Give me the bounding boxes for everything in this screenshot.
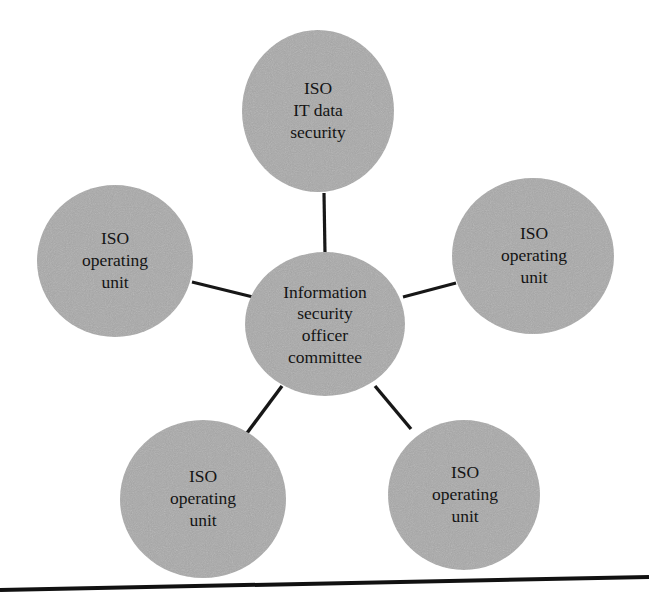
connector-center-to-top <box>324 193 325 254</box>
node-shape-group <box>37 30 614 578</box>
node-shape-iso-operating-unit-left[interactable] <box>37 185 193 337</box>
diagram-canvas: ISO IT data security ISO operating unit … <box>0 0 649 602</box>
node-shape-iso-operating-unit-bottom-right[interactable] <box>388 420 540 570</box>
connector-center-to-lower-right <box>375 386 411 429</box>
node-shape-iso-it-data-security[interactable] <box>242 30 394 192</box>
node-shape-iso-operating-unit-bottom-left[interactable] <box>120 420 286 578</box>
node-shape-information-security-officer-committee[interactable] <box>245 252 405 396</box>
connector-center-to-lower-left <box>247 386 282 433</box>
node-shape-iso-operating-unit-right[interactable] <box>452 178 614 334</box>
connector-center-to-upper-left <box>192 282 253 297</box>
diagram-svg <box>0 0 649 602</box>
bottom-horizontal-rule <box>0 577 649 590</box>
connector-center-to-upper-right <box>403 283 456 297</box>
